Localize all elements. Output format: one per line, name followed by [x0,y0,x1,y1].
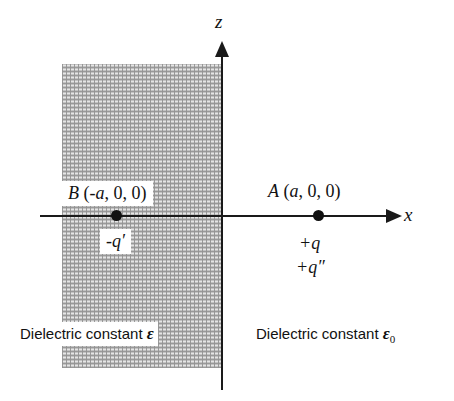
point-a-label: A (a, 0, 0) [268,181,341,202]
dielectric-constant-caption-left: Dielectric constant ε [16,322,158,346]
point-a-marker [313,210,324,221]
point-a-name: A [268,181,279,201]
dielectric-constant-caption-right: Dielectric constant ε0 [252,322,399,347]
physics-diagram-figure: x z B (-a, 0, 0) A (a, 0, 0) -q′ +q +q″ … [0,0,454,401]
z-axis-label: z [215,11,222,33]
point-b-marker [111,210,122,221]
charge-label-positive-q-double-prime: +q″ [296,257,325,278]
point-b-coord-neg: -a [90,183,105,203]
epsilon-glyph-right: ε [383,324,390,343]
caption-right-text: Dielectric constant [256,325,379,342]
epsilon-symbol-left: ε [147,324,154,343]
epsilon-symbol-right: ε0 [383,324,395,343]
charge-label-negative-q-prime: -q′ [100,229,131,254]
x-axis-line [40,215,392,217]
point-a-coord-rest: , 0, 0) [299,181,341,201]
point-b-coord-rest: , 0, 0) [105,183,147,203]
x-axis-arrowhead-icon [386,209,402,223]
charge-label-positive-q: +q [299,233,320,254]
point-a-coord-var: a [290,181,299,201]
z-axis-line [221,50,223,390]
point-b-label: B (-a, 0, 0) [62,181,153,206]
z-axis-arrowhead-icon [215,41,229,57]
epsilon-subscript-right: 0 [390,333,396,345]
x-axis-label: x [404,204,412,226]
point-b-name: B [68,183,79,203]
caption-left-text: Dielectric constant [20,325,143,342]
